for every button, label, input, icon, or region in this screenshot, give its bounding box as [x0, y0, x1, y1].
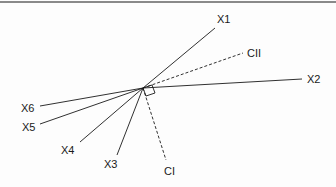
vector-x5-label: X5 [22, 121, 35, 133]
vector-x6-line [40, 88, 143, 106]
diagram-canvas: X1X2X3X4X5X6CICII [0, 0, 336, 187]
vector-cii-label: CII [247, 47, 261, 59]
vector-x4-line [80, 88, 143, 142]
vector-diagram: X1X2X3X4X5X6CICII [0, 0, 336, 187]
vector-x2-label: X2 [307, 73, 320, 85]
vector-ci-line [143, 88, 166, 160]
vector-x4-label: X4 [61, 144, 74, 156]
vector-x6-label: X6 [21, 102, 34, 114]
vector-x3-line [117, 88, 143, 155]
vector-x1-label: X1 [217, 13, 230, 25]
vector-x5-line [40, 88, 143, 124]
vector-lines [40, 28, 302, 160]
vector-ci-label: CI [164, 165, 175, 177]
vector-x1-line [143, 28, 215, 88]
vector-x2-line [143, 79, 302, 88]
vector-labels: X1X2X3X4X5X6CICII [21, 13, 320, 177]
vector-x3-label: X3 [104, 158, 117, 170]
